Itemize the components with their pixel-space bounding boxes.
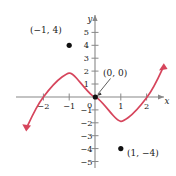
y-tick-label--4: −4 [80, 144, 92, 154]
y-tick-label--5: −5 [80, 157, 92, 167]
y-tick-label--1: −1 [80, 105, 92, 115]
annotation-local-min: (1, −4) [127, 148, 159, 158]
point-dot-local-max [67, 43, 72, 48]
point-dot-local-min [118, 146, 123, 151]
y-tick-label--2: −2 [80, 118, 92, 128]
x-axis-arrow-icon [158, 94, 164, 99]
x-tick-label-1: 1 [118, 101, 123, 111]
y-tick-label-4: 4 [84, 40, 89, 50]
point-dot-origin [93, 94, 98, 99]
x-axis-label: x [165, 96, 170, 106]
y-tick-label-5: 5 [84, 27, 89, 37]
origin-leader-line [98, 79, 111, 95]
curve-arrow-down-icon [22, 124, 31, 131]
curve-arrow-up-icon [159, 63, 168, 70]
x-tick-label-2: 2 [144, 101, 149, 111]
annotation-origin: (0, 0) [103, 68, 127, 78]
y-axis-label: y [87, 14, 93, 24]
y-tick-label-1: 1 [84, 79, 89, 89]
y-tick-label-3: 3 [84, 53, 89, 63]
graph-figure: y x −2 −1 1 2 0 5 4 3 2 1 −1 −2 −3 −4 −5… [0, 0, 176, 176]
graph-canvas: y x −2 −1 1 2 0 5 4 3 2 1 −1 −2 −3 −4 −5… [0, 0, 176, 176]
annotation-local-max: (−1, 4) [30, 25, 62, 35]
y-tick-label--3: −3 [80, 131, 92, 141]
x-tick-label--1: −1 [63, 101, 75, 111]
y-tick-label-2: 2 [84, 66, 89, 76]
y-axis-arrow-icon [92, 15, 97, 21]
x-tick-label--2: −2 [37, 101, 49, 111]
